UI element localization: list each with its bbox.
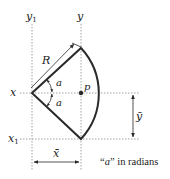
- label-xbar: x̄: [53, 147, 60, 160]
- label-p: p: [84, 81, 91, 92]
- label-y: y: [76, 10, 84, 23]
- label-x: x: [10, 86, 17, 99]
- label-R: R: [41, 54, 50, 67]
- angle-arc-upper: [47, 80, 52, 92]
- label-a-lower: a: [56, 97, 62, 108]
- label-ybar: ȳ: [135, 110, 143, 123]
- label-y1: y1: [25, 10, 37, 24]
- radius-dimension: [31, 44, 74, 88]
- label-a-upper: a: [56, 77, 62, 88]
- sector-diagram: y1 y x x1 R p a a ȳ x̄ “a” in radians: [0, 0, 170, 179]
- label-x1: x1: [8, 132, 19, 146]
- radians-note: “a” in radians: [100, 156, 158, 167]
- centroid-point: [79, 91, 83, 95]
- angle-arc-lower: [47, 94, 52, 106]
